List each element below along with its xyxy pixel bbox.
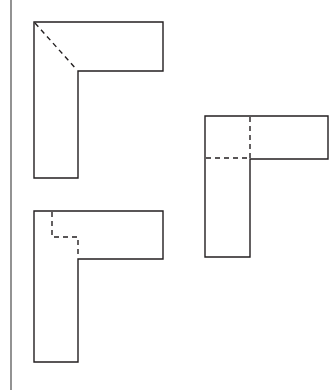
view-right-outline — [205, 116, 328, 257]
view-right — [205, 116, 328, 257]
view-top-left-outline — [34, 22, 163, 178]
orthographic-views-figure — [0, 0, 334, 390]
view-bottom-left-outline — [34, 211, 163, 362]
view-top-left — [34, 22, 163, 178]
view-bottom-left — [34, 211, 163, 362]
drawing-page — [0, 0, 334, 390]
